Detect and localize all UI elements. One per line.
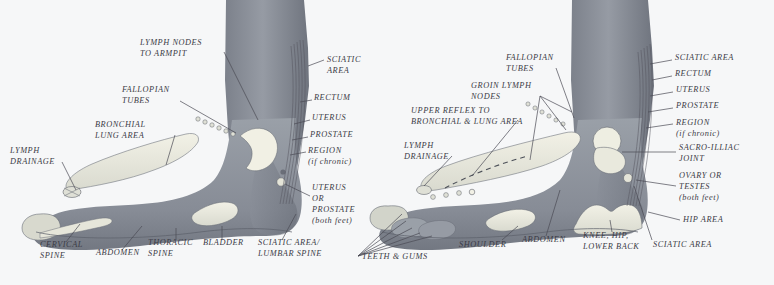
label-line: SACRO-ILLIAC bbox=[679, 143, 740, 152]
label-line: (if chronic) bbox=[308, 157, 352, 166]
label-prostate: PROSTATE bbox=[309, 130, 353, 139]
label-line: LUMBAR SPINE bbox=[257, 249, 322, 258]
label-line: UTERUS bbox=[676, 85, 710, 94]
label-line: (both feet) bbox=[679, 193, 719, 202]
label-line: NODES bbox=[470, 92, 501, 101]
left-small-marker-dot bbox=[280, 169, 285, 174]
label-prostate-r: PROSTATE bbox=[675, 101, 719, 110]
label-line: TEETH & GUMS bbox=[362, 252, 428, 261]
label-uterus: UTERUS bbox=[312, 113, 346, 122]
label-line: SPINE bbox=[148, 249, 173, 258]
label-line: BLADDER bbox=[203, 238, 244, 247]
label-line: (both feet) bbox=[312, 216, 352, 225]
label-line: KNEE, HIP, bbox=[582, 231, 629, 240]
label-line: HIP AREA bbox=[682, 215, 724, 224]
label-line: AREA bbox=[326, 66, 350, 75]
label-line: BRONCHIAL bbox=[95, 120, 146, 129]
label-line: LYMPH NODES bbox=[139, 38, 202, 47]
label-hip-area: HIP AREA bbox=[682, 215, 724, 224]
label-line: PROSTATE bbox=[311, 205, 355, 214]
label-line: LUNG AREA bbox=[94, 131, 145, 140]
label-line: TUBES bbox=[506, 64, 534, 73]
label-line: DRAINAGE bbox=[9, 157, 55, 166]
label-uterus-r: UTERUS bbox=[676, 85, 710, 94]
label-rectum-r: RECTUM bbox=[674, 69, 712, 78]
label-line: SCIATIC AREA/ bbox=[258, 238, 320, 247]
label-line: UTERUS bbox=[312, 113, 346, 122]
label-line: REGION bbox=[307, 146, 342, 155]
label-line: SHOULDER bbox=[459, 240, 506, 249]
foot-chart-canvas: LYMPH NODESTO ARMPITSCIATICAREAFALLOPIAN… bbox=[0, 0, 774, 285]
label-sciatic-area-bottom-r: SCIATIC AREA bbox=[653, 240, 712, 249]
label-line: JOINT bbox=[679, 154, 705, 163]
label-line: SPINE bbox=[40, 251, 65, 260]
label-line: TO ARMPIT bbox=[140, 49, 188, 58]
label-abdomen: ABDOMEN bbox=[95, 248, 139, 257]
label-line: FALLOPIAN bbox=[121, 85, 170, 94]
right-lymph-drainage-marker bbox=[417, 186, 432, 195]
label-line: LYMPH bbox=[9, 146, 40, 155]
label-line: TESTES bbox=[679, 182, 710, 191]
label-line: LYMPH bbox=[403, 141, 434, 150]
label-line: OVARY OR bbox=[679, 171, 722, 180]
label-line: SCIATIC AREA bbox=[653, 240, 712, 249]
label-line: TUBES bbox=[122, 96, 150, 105]
label-line: SCIATIC AREA bbox=[675, 53, 734, 62]
label-line: LOWER BACK bbox=[582, 242, 639, 251]
reflexology-chart: LYMPH NODESTO ARMPITSCIATICAREAFALLOPIAN… bbox=[0, 0, 774, 285]
label-line: FALLOPIAN bbox=[505, 53, 554, 62]
label-line: ABDOMEN bbox=[95, 248, 139, 257]
label-line: REGION bbox=[675, 118, 710, 127]
right-ovary-testes-point bbox=[624, 174, 633, 183]
label-line: UTERUS bbox=[312, 183, 346, 192]
label-teeth-and-gums: TEETH & GUMS bbox=[362, 252, 428, 261]
label-line: SCIATIC bbox=[327, 55, 361, 64]
label-line: BRONCHIAL & LUNG AREA bbox=[411, 117, 523, 126]
label-line: OR bbox=[312, 194, 324, 203]
label-bladder: BLADDER bbox=[203, 238, 244, 247]
label-line: RECTUM bbox=[674, 69, 712, 78]
label-line: THORACIC bbox=[148, 238, 193, 247]
label-line: PROSTATE bbox=[675, 101, 719, 110]
label-sciatic-area-r: SCIATIC AREA bbox=[675, 53, 734, 62]
label-line: GROIN LYMPH bbox=[471, 81, 532, 90]
label-line: DRAINAGE bbox=[403, 152, 449, 161]
label-line: UPPER REFLEX TO bbox=[411, 106, 490, 115]
label-rectum: RECTUM bbox=[313, 93, 351, 102]
label-line: CERVICAL bbox=[40, 240, 83, 249]
label-line: ABDOMEN bbox=[521, 235, 565, 244]
label-shoulder: SHOULDER bbox=[459, 240, 506, 249]
label-abdomen-r: ABDOMEN bbox=[521, 235, 565, 244]
label-line: RECTUM bbox=[313, 93, 351, 102]
label-line: (if chronic) bbox=[676, 129, 720, 138]
label-line: PROSTATE bbox=[309, 130, 353, 139]
